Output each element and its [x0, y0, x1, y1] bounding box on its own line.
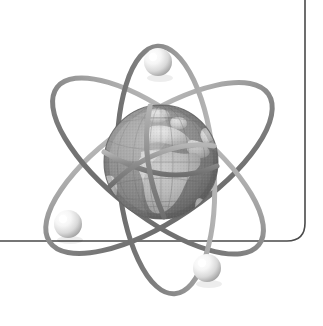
electron-left-specular [59, 215, 67, 223]
electron-top [144, 48, 173, 82]
electron-top-body [144, 48, 172, 76]
electron-left [54, 210, 83, 244]
electron-bottom-right [193, 254, 222, 288]
electron-bottom-right-specular [198, 259, 206, 267]
logo-canvas [0, 0, 323, 326]
electron-top-specular [149, 53, 157, 61]
electron-bottom-right-body [193, 254, 221, 282]
atom-globe-illustration [0, 0, 323, 326]
electron-left-body [54, 210, 82, 238]
